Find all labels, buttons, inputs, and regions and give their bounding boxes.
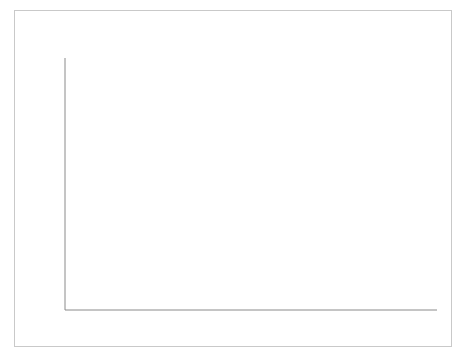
plot-area [0,0,465,363]
plot-background [65,58,437,310]
chart-figure [0,0,465,363]
